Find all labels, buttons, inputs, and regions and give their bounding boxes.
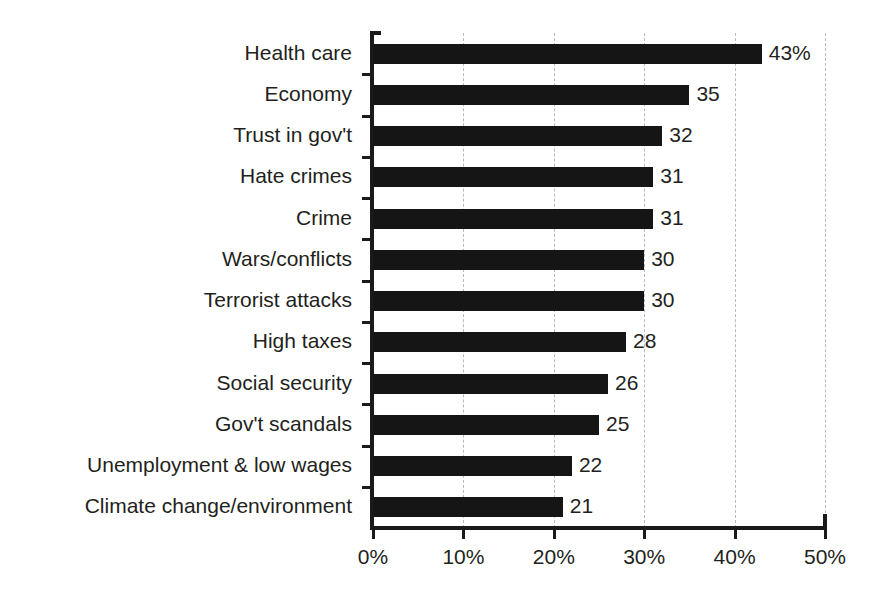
x-tick-20 (553, 526, 556, 539)
bar (373, 44, 762, 64)
bar (373, 85, 689, 105)
bar-value-label: 26 (615, 373, 638, 393)
x-axis-label-40: 40% (714, 545, 756, 569)
y-tick (362, 280, 373, 283)
y-tick (362, 73, 373, 76)
bar-chart: Health careEconomyTrust in gov'tHate cri… (0, 0, 875, 607)
bar (373, 209, 653, 229)
x-axis-label-50: 50% (804, 545, 846, 569)
category-label: Terrorist attacks (0, 289, 362, 311)
bar (373, 126, 662, 146)
category-label: Economy (0, 83, 362, 105)
y-tick (362, 403, 373, 406)
bar (373, 374, 608, 394)
bar-value-label: 21 (570, 496, 593, 516)
bar-value-label: 31 (660, 166, 683, 186)
y-tick (362, 445, 373, 448)
bar-value-label: 35 (696, 84, 719, 104)
y-tick (362, 115, 373, 118)
y-tick (362, 238, 373, 241)
x-tick-0 (372, 526, 375, 539)
y-tick (362, 486, 373, 489)
bar (373, 415, 599, 435)
category-label: Health care (0, 42, 362, 64)
category-label: High taxes (0, 330, 362, 352)
bar-value-label: 30 (651, 290, 674, 310)
bar (373, 456, 572, 476)
bar (373, 497, 563, 517)
x-tick-50 (824, 526, 827, 539)
category-label: Hate crimes (0, 165, 362, 187)
gridline-10 (463, 33, 464, 528)
bar-value-label: 22 (579, 455, 602, 475)
x-tick-10 (462, 526, 465, 539)
x-axis-label-0: 0% (358, 545, 388, 569)
category-label: Wars/conflicts (0, 248, 362, 270)
bar-value-label: 31 (660, 208, 683, 228)
y-tick (362, 197, 373, 200)
category-label: Social security (0, 372, 362, 394)
bar (373, 332, 626, 352)
gridline-50 (825, 33, 826, 528)
bar (373, 250, 644, 270)
category-label: Trust in gov't (0, 124, 362, 146)
category-label: Climate change/environment (0, 495, 362, 517)
gridline-20 (554, 33, 555, 528)
bar-value-label: 28 (633, 331, 656, 351)
category-label: Unemployment & low wages (0, 454, 362, 476)
y-tick (362, 362, 373, 365)
x-axis-label-10: 10% (442, 545, 484, 569)
gridline-30 (644, 33, 645, 528)
y-tick (362, 156, 373, 159)
bar-value-label: 30 (651, 249, 674, 269)
bar (373, 291, 644, 311)
x-tick-40 (734, 526, 737, 539)
category-label: Gov't scandals (0, 413, 362, 435)
x-axis-line (370, 526, 827, 530)
x-axis-label-30: 30% (623, 545, 665, 569)
y-axis-top-cap (370, 31, 381, 35)
bar-value-label: 25 (606, 414, 629, 434)
bar-value-label: 32 (669, 125, 692, 145)
category-label: Crime (0, 207, 362, 229)
bar-value-label: 43% (769, 43, 811, 63)
x-tick-30 (643, 526, 646, 539)
gridline-40 (735, 33, 736, 528)
bar (373, 167, 653, 187)
x-axis-label-20: 20% (533, 545, 575, 569)
y-tick (362, 321, 373, 324)
